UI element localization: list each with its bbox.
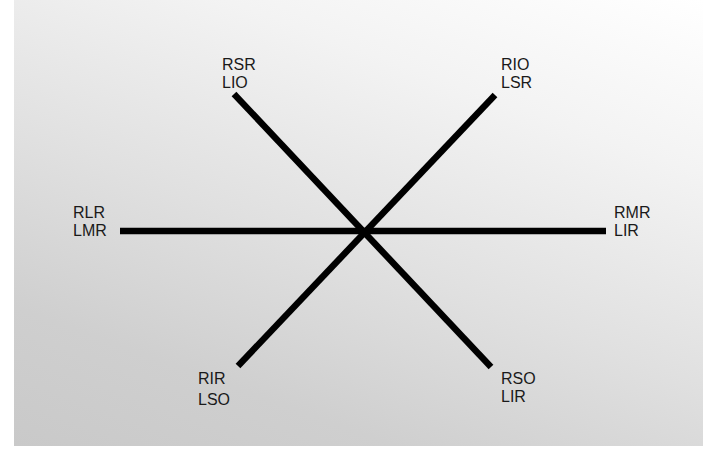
label-left: RLR LMR bbox=[73, 204, 107, 240]
label-upper-right-bottom: LSR bbox=[501, 74, 532, 92]
label-lower-right: RSO LIR bbox=[501, 370, 536, 406]
label-right-top: RMR bbox=[614, 204, 650, 222]
label-upper-left-top: RSR bbox=[222, 56, 256, 74]
label-right-bottom: LIR bbox=[614, 222, 650, 240]
label-upper-right-top: RIO bbox=[501, 56, 532, 74]
label-lower-left-bottom: LSO bbox=[198, 391, 230, 409]
label-lower-left-top: RIR bbox=[198, 370, 230, 388]
diagram-panel: RSR LIO RIO LSR RLR LMR RMR LIR RIR LSO … bbox=[14, 0, 703, 446]
label-upper-left: RSR LIO bbox=[222, 56, 256, 92]
label-right: RMR LIR bbox=[614, 204, 650, 240]
cross-lines bbox=[14, 0, 703, 446]
label-left-top: RLR bbox=[73, 204, 107, 222]
label-left-bottom: LMR bbox=[73, 222, 107, 240]
label-lower-right-bottom: LIR bbox=[501, 388, 536, 406]
label-upper-right: RIO LSR bbox=[501, 56, 532, 92]
label-upper-left-bottom: LIO bbox=[222, 74, 256, 92]
label-lower-left: RIR LSO bbox=[198, 370, 230, 409]
label-lower-right-top: RSO bbox=[501, 370, 536, 388]
